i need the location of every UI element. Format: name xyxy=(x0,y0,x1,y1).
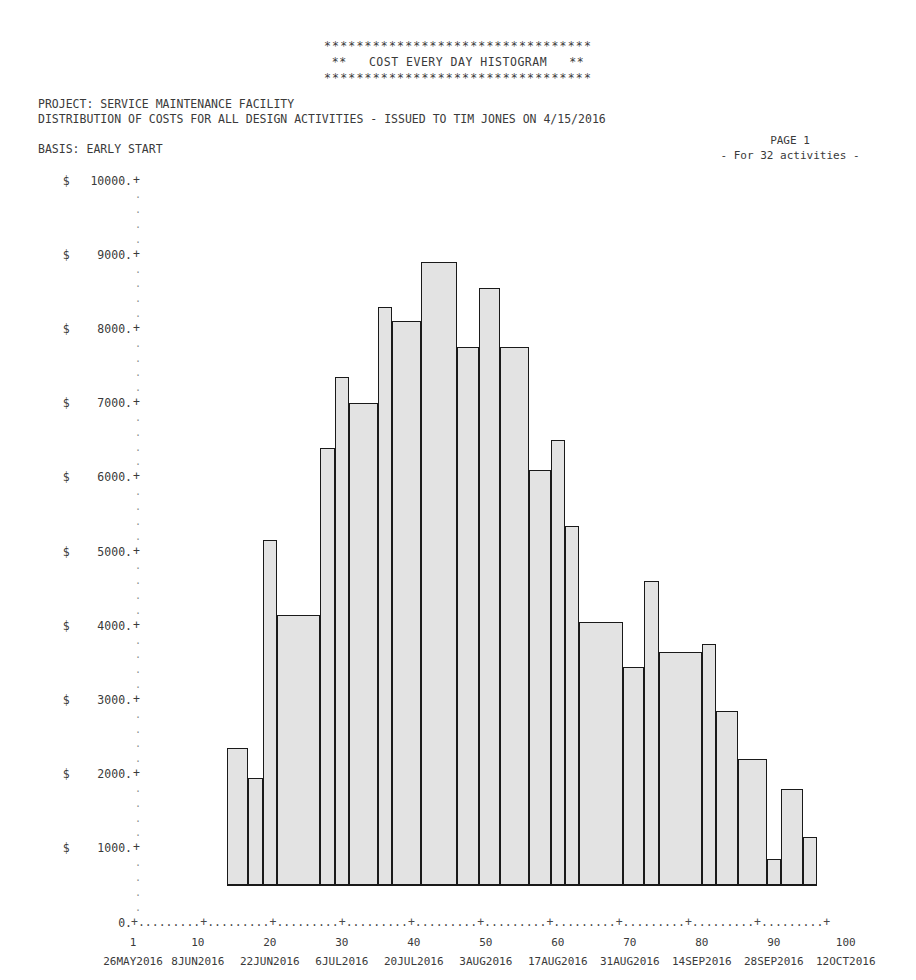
x-axis-number: 20 xyxy=(230,936,310,949)
x-axis-number: 50 xyxy=(446,936,526,949)
histogram-bar xyxy=(551,440,565,886)
x-axis-number: 60 xyxy=(518,936,598,949)
x-axis-number: 10 xyxy=(158,936,238,949)
histogram-bar xyxy=(565,526,579,886)
histogram-bar xyxy=(248,778,262,886)
x-axis-number: 30 xyxy=(302,936,382,949)
x-axis-number: 80 xyxy=(662,936,742,949)
histogram-bar xyxy=(781,789,803,886)
histogram-bar xyxy=(335,377,349,886)
histogram-bar xyxy=(457,347,479,886)
histogram-bar xyxy=(392,321,421,886)
x-axis-number: 90 xyxy=(734,936,814,949)
x-axis-rule: +.........+.........+.........+.........… xyxy=(131,915,830,929)
histogram-plot: $ 10000.+....$ 9000.+....$ 8000.+....$ 7… xyxy=(0,0,916,980)
histogram-bar xyxy=(803,837,817,886)
histogram-bar xyxy=(659,652,702,886)
histogram-bar xyxy=(579,622,622,886)
histogram-bar xyxy=(349,403,378,886)
histogram-bar xyxy=(738,759,767,886)
histogram-bar xyxy=(767,859,781,886)
histogram-bar xyxy=(227,748,249,886)
histogram-bar xyxy=(716,711,738,886)
histogram-bar xyxy=(320,448,334,886)
bar-series xyxy=(0,0,916,980)
x-axis-number: 70 xyxy=(590,936,670,949)
histogram-bar xyxy=(529,470,551,886)
histogram-bar xyxy=(277,615,320,886)
histogram-report-page: ********************************* ** COS… xyxy=(0,0,916,980)
histogram-bar xyxy=(702,644,716,886)
x-axis-number: 40 xyxy=(374,936,454,949)
plot-baseline xyxy=(227,884,817,886)
histogram-bar xyxy=(378,307,392,886)
histogram-bar xyxy=(421,262,457,886)
histogram-bar xyxy=(479,288,501,886)
x-axis-number: 100 xyxy=(806,936,886,949)
histogram-bar xyxy=(644,581,658,886)
x-axis-date: 12OCT2016 xyxy=(798,955,894,968)
histogram-bar xyxy=(263,540,277,886)
histogram-bar xyxy=(500,347,529,886)
histogram-bar xyxy=(623,667,645,886)
